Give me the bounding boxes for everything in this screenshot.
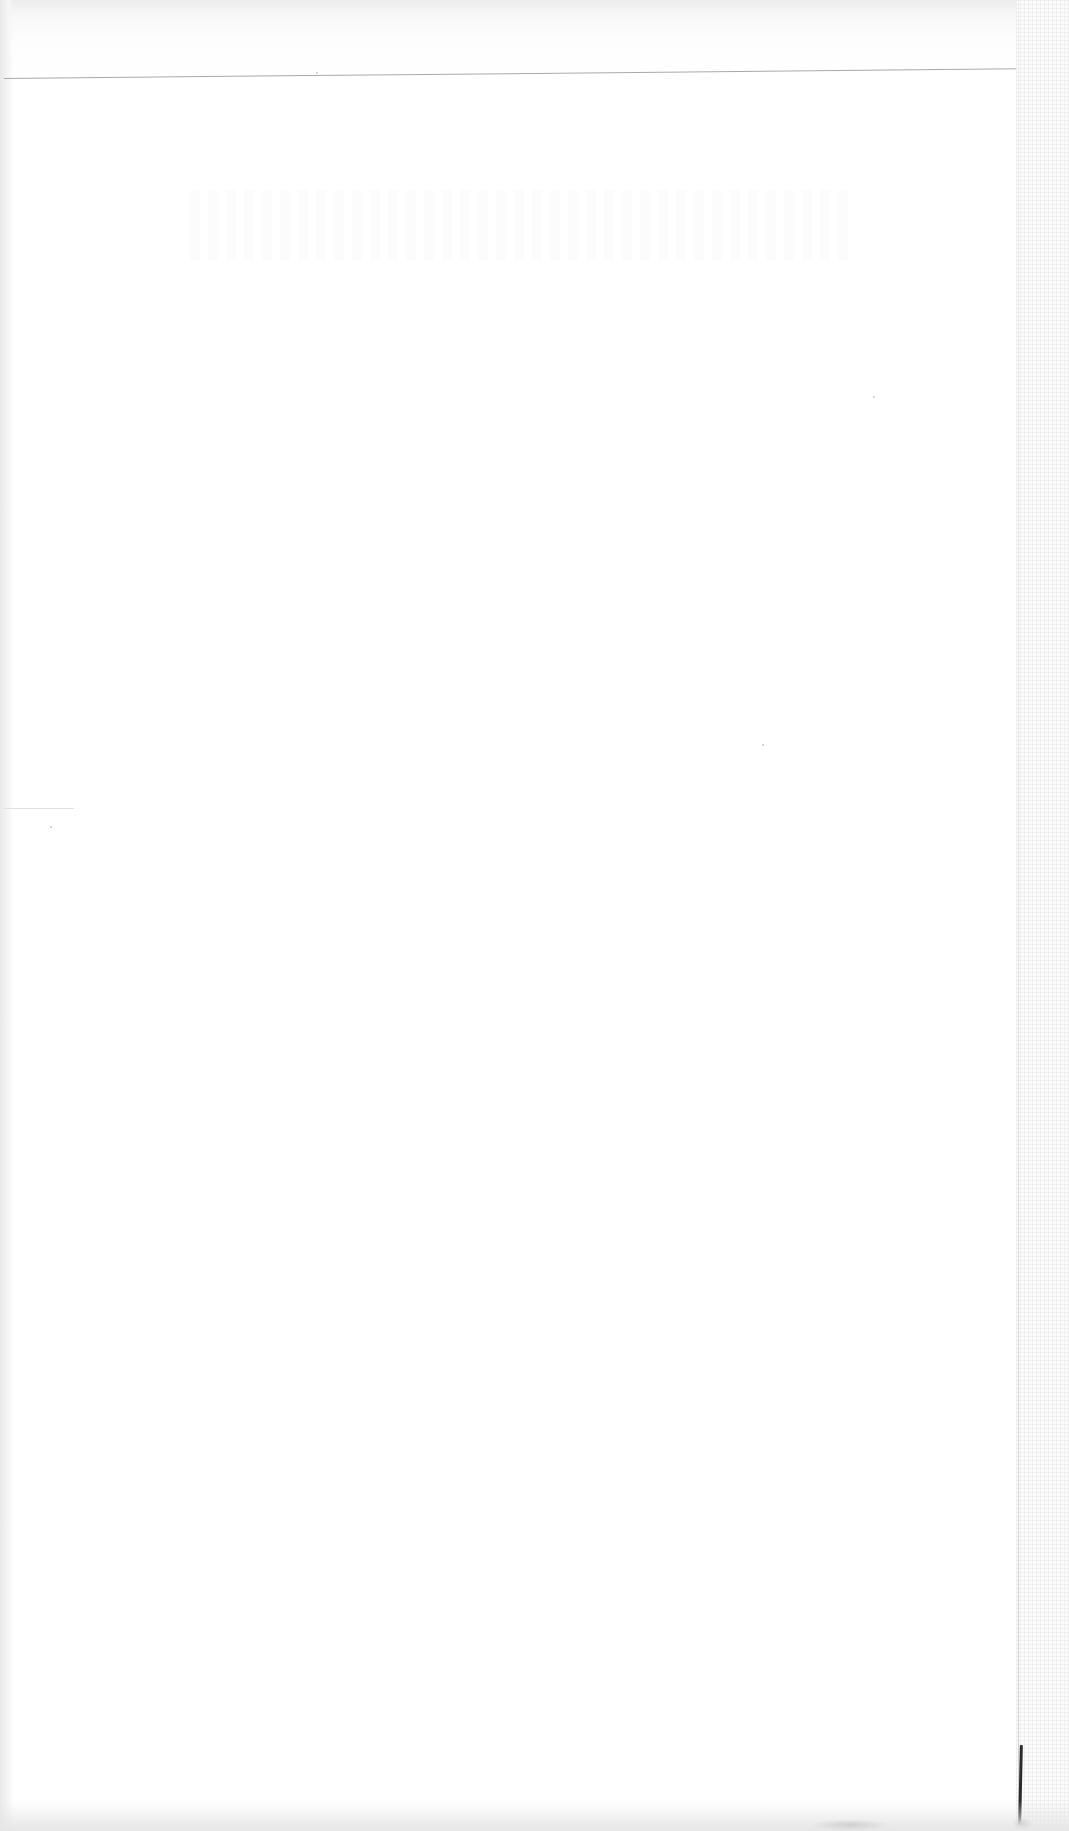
scan-speck [873,396,875,398]
bleed-through-text [190,190,850,260]
scan-speck [762,744,764,746]
scan-bottom-smudge [810,1819,890,1831]
scan-speck [316,72,318,74]
scan-speck [50,826,52,828]
page-edge-line [1018,0,1019,1831]
scan-bottom-shadow [0,1801,1069,1831]
header-rule [4,68,1069,79]
scan-left-shadow [0,0,14,1831]
margin-mark [4,808,74,809]
scan-edge-grid [1016,0,1069,1831]
document-page [0,0,1069,1831]
